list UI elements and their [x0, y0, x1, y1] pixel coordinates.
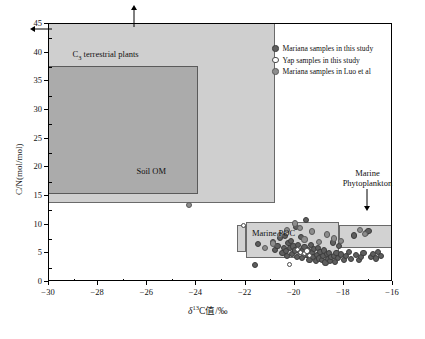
x-tick-label: −28 — [88, 287, 106, 297]
legend-marker-icon — [272, 68, 279, 75]
y-tick-label: 15 — [22, 190, 42, 200]
legend-item-2[interactable]: Mariana samples in Luo et al — [272, 67, 418, 76]
figure-scatter-plot: −30−28−26−24−22−20−18−16 051015202530354… — [0, 0, 425, 339]
x-minor-tick — [123, 279, 124, 281]
y-tick — [44, 224, 48, 225]
y-tick-label: 40 — [22, 47, 42, 57]
data-point — [378, 253, 384, 259]
legend-item-1[interactable]: Yap samples in this study — [272, 56, 418, 65]
y-tick-label: 0 — [22, 276, 42, 286]
y-minor-tick — [49, 67, 52, 68]
data-point — [351, 232, 357, 238]
x-minor-tick — [368, 279, 369, 281]
x-axis-title: δ13C值/‰ — [188, 303, 227, 317]
legend-item-label: Mariana samples in Luo et al — [283, 67, 371, 76]
region-marine-phytoplankton-whisker — [237, 225, 246, 252]
x-minor-tick — [270, 279, 271, 281]
arrow-down-phytoplankton — [363, 189, 371, 211]
y-tick — [44, 252, 48, 253]
y-tick-label: 5 — [22, 247, 42, 257]
x-minor-tick — [172, 279, 173, 281]
data-point — [360, 250, 366, 256]
x-tick — [48, 281, 49, 285]
data-point — [186, 202, 192, 208]
data-point — [346, 249, 352, 255]
x-tick-label: −24 — [186, 287, 204, 297]
y-tick — [44, 195, 48, 196]
y-minor-tick — [49, 38, 52, 39]
y-tick — [44, 138, 48, 139]
legend-marker-icon — [272, 45, 279, 52]
legend-item-label: Yap samples in this study — [283, 56, 360, 65]
region-label-c3-terrestrial-plants: C3 terrestrial plants — [73, 49, 139, 61]
x-tick-label: −22 — [236, 287, 254, 297]
y-minor-tick — [49, 268, 52, 269]
y-tick — [44, 166, 48, 167]
x-tick — [343, 281, 344, 285]
data-point — [297, 225, 303, 231]
y-tick-label: 30 — [22, 104, 42, 114]
legend: Mariana samples in this studyYap samples… — [272, 44, 418, 79]
data-point — [324, 231, 330, 237]
y-tick-label: 25 — [22, 133, 42, 143]
x-tick — [245, 281, 246, 285]
y-tick-label: 35 — [22, 75, 42, 85]
y-minor-tick — [49, 182, 52, 183]
x-minor-tick — [319, 279, 320, 281]
x-minor-tick — [74, 279, 75, 281]
data-point — [270, 240, 276, 246]
y-minor-tick — [49, 210, 52, 211]
x-tick-label: −30 — [39, 287, 57, 297]
data-point — [287, 262, 292, 267]
data-point — [303, 217, 309, 223]
y-minor-tick — [49, 239, 52, 240]
arrow-up-c3-region — [130, 5, 138, 27]
y-tick — [44, 52, 48, 53]
x-tick-label: −16 — [383, 287, 401, 297]
y-tick-label: 20 — [22, 161, 42, 171]
region-label-soil-om: Soil OM — [136, 166, 166, 176]
x-tick — [195, 281, 196, 285]
x-tick — [97, 281, 98, 285]
x-tick-label: −26 — [137, 287, 155, 297]
legend-marker-icon — [272, 57, 279, 64]
y-tick-label: 10 — [22, 219, 42, 229]
x-minor-tick — [221, 279, 222, 281]
x-tick — [294, 281, 295, 285]
y-minor-tick — [49, 96, 52, 97]
region-soil-om — [48, 66, 198, 194]
legend-item-0[interactable]: Mariana samples in this study — [272, 44, 418, 53]
arrow-left-c3-region — [30, 25, 52, 33]
data-point — [331, 235, 337, 241]
y-minor-tick — [49, 153, 52, 154]
data-point — [252, 262, 258, 268]
annotation-marine-phytoplankton: MarinePhytoplankton — [327, 169, 407, 189]
legend-item-label: Mariana samples in this study — [283, 44, 374, 53]
x-tick-label: −18 — [334, 287, 352, 297]
y-axis-title: C/N(mol/mol) — [14, 144, 24, 196]
x-tick-label: −20 — [285, 287, 303, 297]
x-tick — [146, 281, 147, 285]
data-point — [301, 236, 307, 242]
y-minor-tick — [49, 124, 52, 125]
region-label-marine-poc: Marine POC — [252, 228, 295, 238]
data-point — [309, 228, 315, 234]
data-point — [362, 231, 368, 237]
y-tick — [44, 109, 48, 110]
y-tick — [44, 281, 48, 282]
x-tick — [392, 281, 393, 285]
y-tick — [44, 80, 48, 81]
